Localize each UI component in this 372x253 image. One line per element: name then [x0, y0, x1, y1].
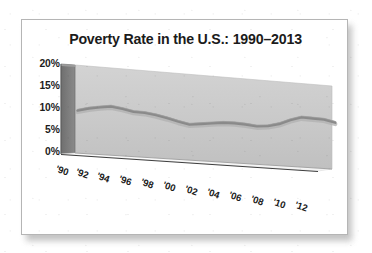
x-tick-2012: '12	[294, 199, 310, 214]
x-tick-2000: '00	[162, 179, 178, 194]
x-tick-2002: '02	[184, 183, 200, 198]
x-tick-1992: '92	[75, 166, 91, 181]
x-tick-1996: '96	[118, 173, 134, 188]
x-tick-1994: '94	[96, 170, 112, 185]
x-tick-2006: '06	[228, 189, 244, 204]
x-tick-1990: '90	[55, 163, 71, 178]
x-tick-1998: '98	[140, 176, 156, 191]
chart-card: Poverty Rate in the U.S.: 1990–2013	[21, 19, 348, 235]
x-tick-2010: '10	[272, 196, 288, 211]
x-tick-2004: '04	[206, 186, 222, 201]
x-tick-2008: '08	[250, 193, 266, 208]
x-axis-labels: '90 '92 '94 '96 '98 '00 '02 '04 '06 '08 …	[22, 20, 348, 235]
scanned-page: Poverty Rate in the U.S.: 1990–2013	[0, 0, 372, 253]
